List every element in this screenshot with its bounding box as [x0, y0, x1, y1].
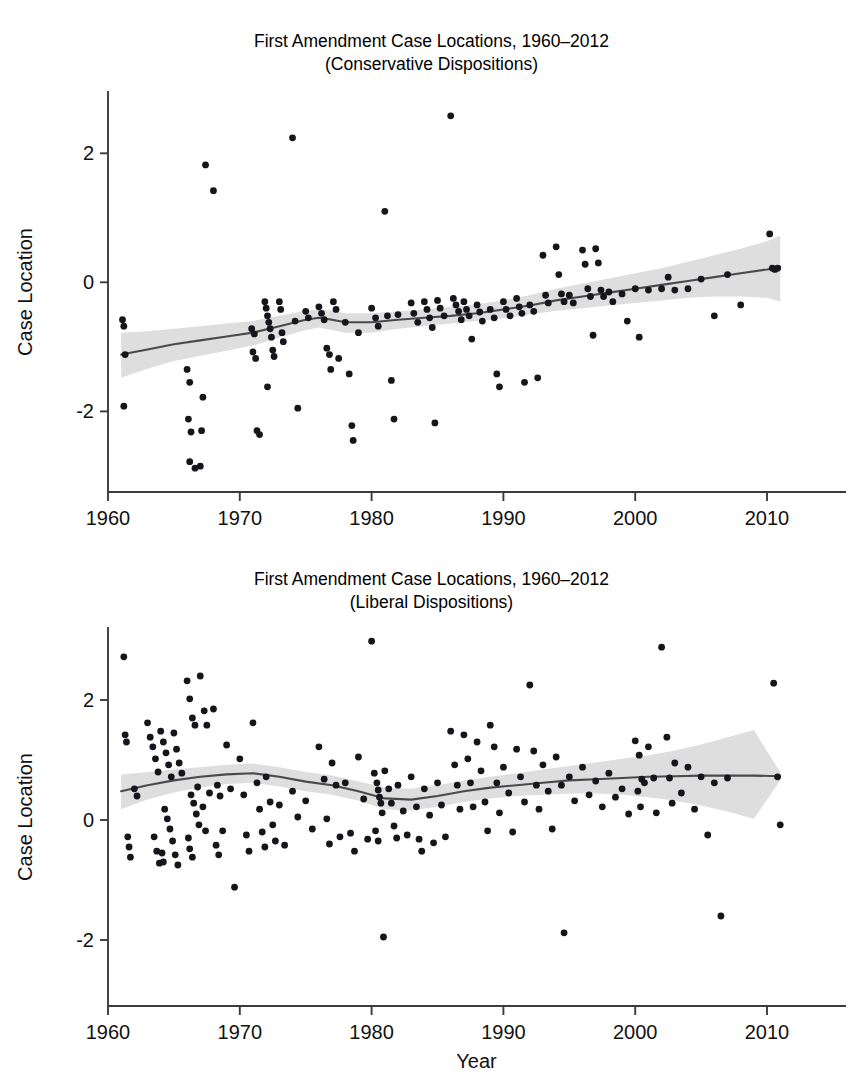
data-point: [120, 323, 127, 330]
data-point: [355, 329, 362, 336]
data-point: [219, 827, 226, 834]
data-point: [416, 836, 423, 843]
data-point: [161, 806, 168, 813]
data-point: [246, 848, 253, 855]
data-point: [120, 653, 127, 660]
data-point: [533, 782, 540, 789]
data-point: [377, 800, 384, 807]
data-point: [160, 739, 167, 746]
y-tick-label: 2: [83, 689, 94, 711]
data-point: [323, 815, 330, 822]
data-point: [168, 773, 175, 780]
chart-panel-liberal: First Amendment Case Locations, 1960–201…: [0, 540, 863, 1078]
x-tick-label: 1970: [218, 507, 263, 529]
data-point: [256, 806, 263, 813]
data-point: [718, 913, 725, 920]
data-point: [650, 775, 657, 782]
data-point: [203, 722, 210, 729]
data-point: [704, 832, 711, 839]
data-point: [685, 764, 692, 771]
data-point: [770, 680, 777, 687]
data-point: [329, 760, 336, 767]
data-point: [292, 318, 299, 325]
y-tick-label: -2: [76, 929, 94, 951]
data-point: [595, 260, 602, 267]
data-point: [330, 298, 337, 305]
data-point: [172, 851, 179, 858]
data-point: [598, 287, 605, 294]
data-point: [152, 755, 159, 762]
data-point: [774, 265, 781, 272]
data-point: [318, 310, 325, 317]
data-point: [305, 314, 312, 321]
data-point: [599, 803, 606, 810]
data-point: [584, 285, 591, 292]
data-point: [632, 737, 639, 744]
data-point: [450, 295, 457, 302]
data-point: [342, 779, 349, 786]
data-point: [256, 431, 263, 438]
data-point: [173, 746, 180, 753]
data-point: [302, 797, 309, 804]
data-point: [385, 785, 392, 792]
data-point: [441, 312, 448, 319]
x-tick-label: 1960: [86, 1021, 131, 1043]
data-point: [491, 743, 498, 750]
data-point: [711, 312, 718, 319]
data-point: [198, 427, 205, 434]
data-point: [174, 862, 181, 869]
data-point: [119, 316, 126, 323]
data-point: [368, 638, 375, 645]
data-point: [267, 325, 274, 332]
data-point: [280, 338, 287, 345]
data-point: [190, 800, 197, 807]
data-point: [279, 329, 286, 336]
data-point: [388, 800, 395, 807]
data-point: [513, 295, 520, 302]
data-point: [120, 403, 127, 410]
data-point: [384, 312, 391, 319]
data-point: [645, 287, 652, 294]
data-point: [493, 371, 500, 378]
data-point: [685, 285, 692, 292]
data-point: [333, 306, 340, 313]
data-point: [144, 719, 151, 726]
x-tick-label: 1990: [481, 1021, 526, 1043]
data-point: [521, 799, 528, 806]
data-point: [476, 309, 483, 316]
data-point: [678, 790, 685, 797]
data-point: [215, 851, 222, 858]
data-point: [326, 841, 333, 848]
data-point: [637, 803, 644, 810]
data-point: [500, 764, 507, 771]
data-point: [206, 790, 213, 797]
y-axis-title: Case Location: [14, 228, 36, 356]
data-point: [625, 811, 632, 818]
data-point: [467, 779, 474, 786]
data-point: [186, 379, 193, 386]
data-point: [321, 316, 328, 323]
data-point: [553, 754, 560, 761]
data-point: [658, 285, 665, 292]
data-point: [261, 844, 268, 851]
data-point: [165, 761, 172, 768]
data-point: [200, 394, 207, 401]
data-point: [534, 374, 541, 381]
data-point: [348, 422, 355, 429]
data-point: [468, 336, 475, 343]
data-point: [169, 838, 176, 845]
data-point: [447, 112, 454, 119]
data-point: [457, 806, 464, 813]
data-point: [265, 319, 272, 326]
data-point: [167, 826, 174, 833]
data-point: [545, 788, 552, 795]
data-point: [566, 292, 573, 299]
data-point: [160, 859, 167, 866]
data-point: [774, 773, 781, 780]
chart-panel-conservative: First Amendment Case Locations, 1960–201…: [0, 0, 863, 540]
data-point: [453, 302, 460, 309]
data-point: [454, 782, 461, 789]
data-point: [122, 351, 129, 358]
data-point: [645, 743, 652, 750]
data-point: [159, 850, 166, 857]
